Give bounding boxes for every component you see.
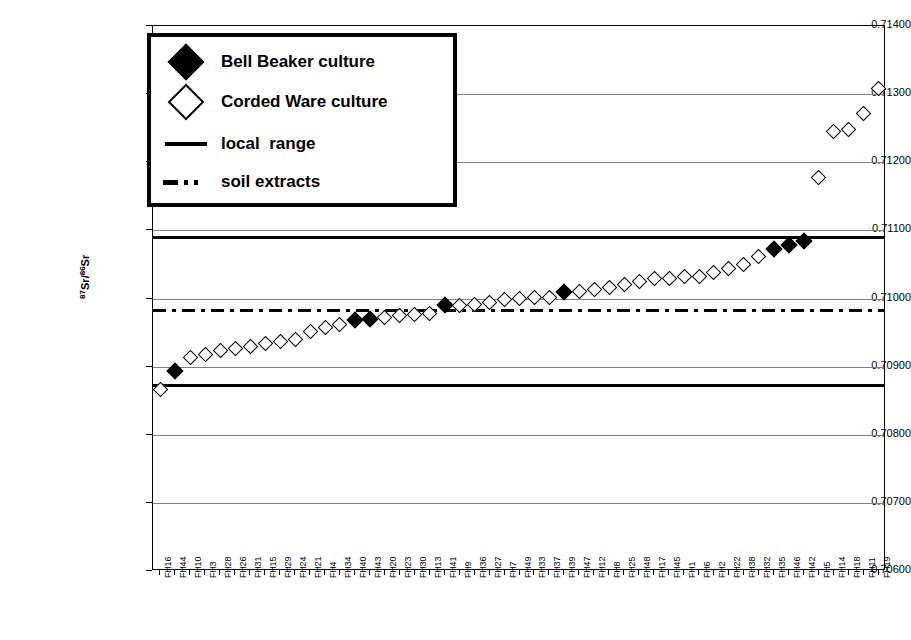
x-axis-tick-mark [758, 570, 759, 575]
x-axis-tick-mark [548, 570, 549, 575]
legend-key-solid-line-icon [151, 142, 221, 146]
data-point-corded-ware [377, 310, 393, 326]
data-point-corded-ware [272, 334, 288, 350]
x-axis-tick-mark [818, 570, 819, 575]
x-axis-tick-mark [878, 570, 879, 575]
x-axis-tick-mark [773, 570, 774, 575]
x-axis-tick-mark [219, 570, 220, 575]
gridline [153, 435, 884, 436]
x-axis-tick-mark [683, 570, 684, 575]
legend-item-local-range: local range [151, 125, 453, 163]
data-point-corded-ware [198, 347, 214, 363]
x-axis-tick-mark [339, 570, 340, 575]
data-point-corded-ware [287, 332, 303, 348]
data-point-corded-ware [482, 295, 498, 311]
reference-line-soil-extracts [153, 309, 884, 312]
reference-line-local-range-upper [153, 236, 884, 239]
x-axis-tick-mark [159, 570, 160, 575]
x-axis-tick-mark [234, 570, 235, 575]
data-point-corded-ware [721, 261, 737, 277]
y-axis-title: 87Sr/86Sr [77, 207, 91, 347]
x-axis-tick-mark [474, 570, 475, 575]
data-point-corded-ware [242, 338, 258, 354]
data-point-corded-ware [512, 291, 528, 307]
x-axis-tick-mark [563, 570, 564, 575]
x-axis-tick-mark [174, 570, 175, 575]
legend-key-dashdot-line-icon [151, 180, 221, 185]
x-axis-tick-mark [459, 570, 460, 575]
x-axis-tick-mark [504, 570, 505, 575]
data-point-corded-ware [572, 284, 588, 300]
gridline [153, 230, 884, 231]
y-axis-mid: Sr/ [79, 275, 91, 290]
data-point-corded-ware [317, 320, 333, 336]
x-axis-tick-mark [444, 570, 445, 575]
x-axis-tick-mark [324, 570, 325, 575]
x-axis-tick-mark [848, 570, 849, 575]
x-axis-tick-mark [608, 570, 609, 575]
data-point-corded-ware [661, 270, 677, 286]
data-point-corded-ware [527, 290, 543, 306]
gridline [153, 367, 884, 368]
data-point-corded-ware [751, 248, 767, 264]
x-axis-tick-mark [638, 570, 639, 575]
x-axis-tick-mark [354, 570, 355, 575]
x-axis-tick-mark [593, 570, 594, 575]
data-point-corded-ware [332, 317, 348, 333]
x-axis-tick-mark [653, 570, 654, 575]
data-point-bell-beaker [346, 312, 363, 329]
legend-label-local-range: local range [221, 134, 315, 154]
x-axis-tick-mark [384, 570, 385, 575]
data-point-corded-ware [497, 292, 513, 308]
y-axis-sup-86: 86 [77, 266, 86, 275]
data-point-corded-ware [826, 124, 842, 140]
data-point-corded-ware [856, 106, 872, 122]
data-point-corded-ware [841, 122, 857, 138]
data-point-corded-ware [302, 324, 318, 340]
x-axis-tick-mark [489, 570, 490, 575]
legend-label-soil-extracts: soil extracts [221, 172, 320, 192]
x-axis-tick-mark [833, 570, 834, 575]
x-axis-tick-mark [399, 570, 400, 575]
data-point-bell-beaker [780, 236, 797, 253]
x-axis-tick-mark [414, 570, 415, 575]
strontium-isotope-scatter-chart: 87Sr/86Sr 0.714000.713000.712000.711000.… [0, 0, 911, 640]
x-axis-tick-mark [743, 570, 744, 575]
data-point-corded-ware [601, 280, 617, 296]
legend-key-open-diamond-icon [151, 89, 221, 115]
data-point-corded-ware [227, 340, 243, 356]
y-axis-title-text: 87Sr/86Sr [79, 255, 91, 299]
data-point-corded-ware [691, 268, 707, 284]
legend-key-filled-diamond-icon [151, 49, 221, 75]
data-point-corded-ware [587, 282, 603, 298]
y-axis-sup-87: 87 [77, 290, 86, 299]
x-axis-tick-mark [803, 570, 804, 575]
x-axis-tick-mark [863, 570, 864, 575]
x-axis-tick-mark [309, 570, 310, 575]
x-axis-tick-mark [698, 570, 699, 575]
data-point-bell-beaker [765, 241, 782, 258]
data-point-corded-ware [736, 257, 752, 273]
data-point-bell-beaker [361, 310, 378, 327]
legend-label-bell-beaker: Bell Beaker culture [221, 52, 375, 72]
x-axis-tick-mark [519, 570, 520, 575]
x-axis-tick-mark [279, 570, 280, 575]
data-point-corded-ware [646, 271, 662, 287]
data-point-corded-ware [706, 265, 722, 281]
reference-line-local-range-lower [153, 384, 884, 387]
data-point-corded-ware [811, 169, 827, 185]
x-axis-tick-mark [249, 570, 250, 575]
x-axis-tick-mark [189, 570, 190, 575]
legend-item-bell-beaker: Bell Beaker culture [151, 43, 453, 81]
x-axis-tick-mark [294, 570, 295, 575]
data-point-corded-ware [213, 343, 229, 359]
gridline [153, 503, 884, 504]
x-axis-tick-mark [264, 570, 265, 575]
x-axis-tick-mark [369, 570, 370, 575]
data-point-corded-ware [631, 274, 647, 290]
x-axis-tick-mark [788, 570, 789, 575]
x-axis-tick-mark [623, 570, 624, 575]
x-axis-tick-mark [429, 570, 430, 575]
x-axis-tick-mark [578, 570, 579, 575]
y-axis-tick-mark [146, 570, 152, 571]
